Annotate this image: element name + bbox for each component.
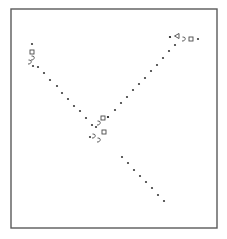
data-point xyxy=(126,96,128,98)
hook-marker-icon xyxy=(31,56,34,60)
data-point xyxy=(61,92,63,94)
data-point xyxy=(197,38,199,40)
data-point xyxy=(107,116,109,118)
data-point xyxy=(73,105,75,107)
data-point xyxy=(43,72,45,74)
square-marker-icon xyxy=(189,37,193,41)
data-point xyxy=(120,102,122,104)
square-marker-icon xyxy=(101,116,105,120)
hook-marker-icon xyxy=(92,134,95,138)
data-point xyxy=(151,187,153,189)
data-point xyxy=(121,156,123,158)
data-point xyxy=(144,77,146,79)
data-point xyxy=(91,124,93,126)
data-point xyxy=(32,65,34,67)
data-point xyxy=(114,109,116,111)
data-point xyxy=(85,117,87,119)
data-point xyxy=(150,70,152,72)
data-point xyxy=(139,175,141,177)
data-points xyxy=(31,36,199,202)
data-point xyxy=(168,50,170,52)
data-point xyxy=(49,79,51,81)
data-point xyxy=(67,98,69,100)
data-point xyxy=(169,36,171,38)
data-point xyxy=(37,66,39,68)
cropped-caption xyxy=(0,232,227,239)
square-marker-icon xyxy=(30,50,34,54)
data-point xyxy=(132,89,134,91)
data-point xyxy=(127,162,129,164)
data-point xyxy=(145,181,147,183)
hook-marker-icon xyxy=(182,37,185,41)
hook-marker-icon xyxy=(97,138,100,142)
square-marker-icon xyxy=(102,130,106,134)
data-point xyxy=(163,200,165,202)
hook-marker-icon xyxy=(28,60,31,64)
data-point xyxy=(133,169,135,171)
cluster-glyphs xyxy=(28,34,193,143)
scatter-plot xyxy=(0,0,227,239)
data-point xyxy=(95,126,97,128)
data-point xyxy=(157,194,159,196)
data-point xyxy=(31,43,33,45)
hook-marker-icon xyxy=(97,121,100,125)
plot-frame xyxy=(11,9,217,228)
data-point xyxy=(138,83,140,85)
data-point xyxy=(89,136,91,138)
triangle-marker-icon xyxy=(175,34,180,39)
data-point xyxy=(174,44,176,46)
data-point xyxy=(79,110,81,112)
data-point xyxy=(56,85,58,87)
data-point xyxy=(162,57,164,59)
data-point xyxy=(156,64,158,66)
